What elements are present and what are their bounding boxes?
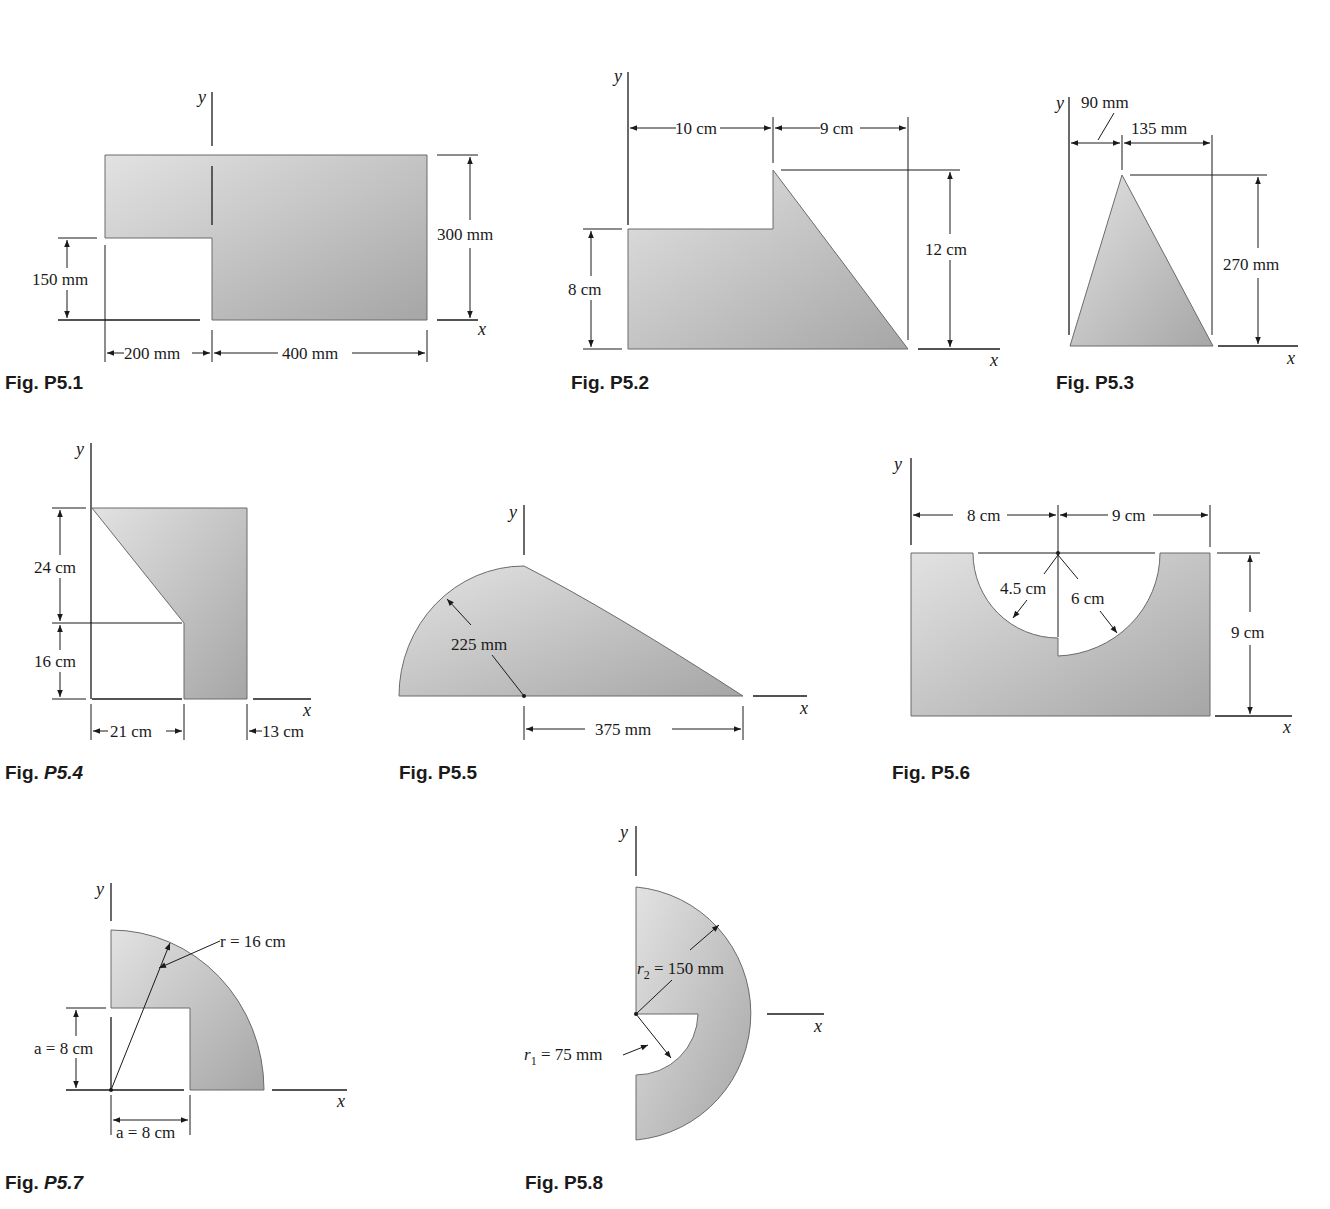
x-axis-label: x [989,350,998,370]
dim-r1: r1 = 75 mm [524,1045,602,1068]
dim-height-bottom: 16 cm [34,652,76,671]
y-axis-label: y [892,454,902,474]
caption-p5-5: Fig. P5.5 [399,762,477,784]
dim-radius-small: 4.5 cm [1000,579,1046,598]
figure-p5-8: y x r2 = 150 mm r1 = 75 mm [524,822,824,1140]
y-axis-label: y [618,822,628,842]
composite-area-shape [628,170,908,349]
dim-width-right: 9 cm [1112,506,1146,525]
dim-height: 9 cm [1231,623,1265,642]
dim-width-left: 21 cm [110,722,152,741]
caption-p5-7: Fig. P5.7 [5,1172,83,1194]
y-axis-label: y [94,879,104,899]
caption-p5-1: Fig. P5.1 [5,372,83,394]
y-axis-label: y [507,502,517,522]
dim-height-left: 150 mm [32,270,88,289]
figure-p5-4: y x 24 cm 16 cm 21 cm 13 cm [34,439,311,741]
x-axis-label: x [813,1016,822,1036]
dim-width-right: 13 cm [262,722,304,741]
figure-p5-7: y x r = 16 cm a = 8 cm a = 8 cm [34,879,347,1142]
dim-height-left: 8 cm [568,280,602,299]
x-axis-label: x [799,698,808,718]
figure-page: y x 150 mm 300 mm 200 mm 400 mm y x [0,0,1330,1209]
x-axis-label: x [1286,348,1295,368]
quarter-circle-with-cutout-shape [111,930,264,1090]
dim-apex-offset: 90 mm [1081,93,1129,112]
dim-a-vertical: a = 8 cm [34,1039,93,1058]
y-axis-label: y [1054,93,1064,113]
dim-height-top: 24 cm [34,558,76,577]
figures-canvas: y x 150 mm 300 mm 200 mm 400 mm y x [0,0,1330,1209]
dim-width-left: 200 mm [124,344,180,363]
composite-area-shape [105,155,427,320]
composite-area-shape [92,508,247,699]
caption-p5-8: Fig. P5.8 [525,1172,603,1194]
caption-number: P5.2 [610,372,649,393]
caption-number: P5.8 [564,1172,603,1193]
caption-number: P5.6 [931,762,970,783]
dim-height-total: 12 cm [925,240,967,259]
figure-p5-5: y x 225 mm 375 mm [399,502,808,740]
dim-height: 270 mm [1223,255,1279,274]
dim-width-right: 9 cm [820,119,854,138]
rectangle-with-cutouts-shape [911,553,1210,716]
y-axis-label: y [74,439,84,459]
dim-height-right: 300 mm [437,225,493,244]
caption-p5-3: Fig. P5.3 [1056,372,1134,394]
dim-width-left: 8 cm [967,506,1001,525]
half-annulus-shape [636,887,751,1140]
caption-number: P5.4 [44,762,83,783]
caption-number: P5.7 [44,1172,83,1193]
figure-p5-2: y x 10 cm 9 cm 8 cm 12 cm [568,66,1000,370]
dim-width-right: 135 mm [1131,119,1187,138]
dim-width-right: 400 mm [282,344,338,363]
y-axis-label: y [196,87,206,107]
figure-p5-1: y x 150 mm 300 mm 200 mm 400 mm [32,87,493,363]
x-axis-label: x [302,700,311,720]
dim-radius: 225 mm [451,635,507,654]
dim-base: 375 mm [595,720,651,739]
dim-radius: r = 16 cm [220,932,286,951]
caption-number: P5.3 [1095,372,1134,393]
x-axis-label: x [1282,717,1291,737]
dim-a-horizontal: a = 8 cm [116,1123,175,1142]
caption-p5-4: Fig. P5.4 [5,762,83,784]
x-axis-label: x [336,1091,345,1111]
caption-p5-6: Fig. P5.6 [892,762,970,784]
semicircle-triangle-shape [399,566,743,696]
triangle-shape [1070,175,1213,346]
dim-radius-large: 6 cm [1071,589,1105,608]
caption-number: P5.5 [438,762,477,783]
figure-p5-6: y x 8 cm 9 cm 4.5 cm 6 cm 9 cm [892,454,1292,737]
figure-p5-3: y x 90 mm 135 mm 270 mm [1054,93,1298,368]
x-axis-label: x [477,319,486,339]
caption-number: P5.1 [44,372,83,393]
y-axis-label: y [612,66,622,86]
dim-width-left: 10 cm [675,119,717,138]
caption-p5-2: Fig. P5.2 [571,372,649,394]
